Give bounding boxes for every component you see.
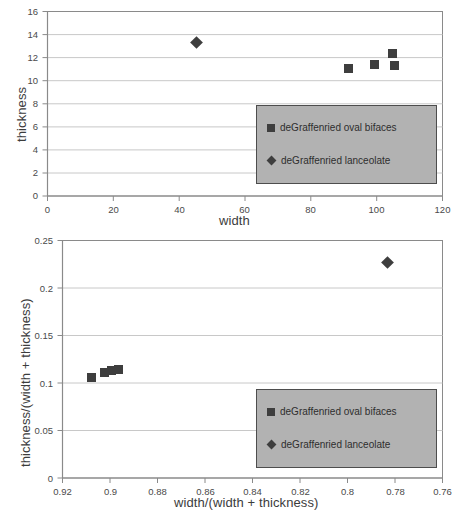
bottom-xtick-076: 0.76 xyxy=(427,486,456,497)
square-marker-icon xyxy=(267,408,275,416)
bottom-xtick-09: 0.9 xyxy=(95,486,126,497)
top-ytick-12: 12 xyxy=(18,52,38,63)
top-ytick-0: 0 xyxy=(18,190,38,201)
chart-thickness-ratio-vs-width-ratio: 0.25 0.2 0.15 0.1 0.05 0 0.92 0.9 0.88 0… xyxy=(0,230,456,517)
data-point-oval-biface xyxy=(388,49,397,58)
data-point-oval-biface xyxy=(370,60,379,69)
bottom-ytick-02: 0.2 xyxy=(25,283,53,294)
data-point-oval-biface xyxy=(390,61,399,70)
top-ytick-4: 4 xyxy=(18,144,38,155)
bottom-x-axis-title: width/(width + thickness) xyxy=(174,495,318,510)
chart-thickness-vs-width: 16 14 12 10 8 6 4 2 0 0 20 40 60 80 100 … xyxy=(0,0,456,230)
square-marker-icon xyxy=(267,124,275,132)
top-xtick-120: 120 xyxy=(427,204,456,215)
bottom-xtick-088: 0.88 xyxy=(142,486,173,497)
top-ytick-16: 16 xyxy=(18,6,38,17)
bottom-xtick-08: 0.8 xyxy=(332,486,363,497)
top-ytick-14: 14 xyxy=(18,29,38,40)
legend-label-oval-bifaces: deGraffenried oval bifaces xyxy=(280,407,397,417)
top-chart-legend: deGraffenried oval bifaces deGraffenried… xyxy=(256,105,437,184)
legend-label-lanceolate: deGraffenried lanceolate xyxy=(281,440,390,450)
data-point-oval-biface xyxy=(114,365,123,374)
bottom-ytick-0: 0 xyxy=(25,473,53,484)
top-x-axis-title: width xyxy=(219,213,250,228)
diamond-marker-icon xyxy=(267,156,277,166)
bottom-xtick-078: 0.78 xyxy=(380,486,411,497)
diamond-marker-icon xyxy=(267,440,277,450)
legend-item-oval-bifaces: deGraffenried oval bifaces xyxy=(267,407,436,417)
top-xtick-20: 20 xyxy=(98,204,129,215)
top-xtick-100: 100 xyxy=(361,204,392,215)
top-ytick-2: 2 xyxy=(18,167,38,178)
data-point-oval-biface xyxy=(87,373,96,382)
top-xtick-0: 0 xyxy=(32,204,63,215)
bottom-plot-frame xyxy=(0,230,456,517)
data-point-oval-biface xyxy=(344,64,353,73)
legend-item-oval-bifaces: deGraffenried oval bifaces xyxy=(267,123,436,133)
top-y-axis-title: thickness xyxy=(14,87,29,142)
legend-item-lanceolate: deGraffenried lanceolate xyxy=(267,156,436,166)
bottom-xtick-092: 0.92 xyxy=(47,486,78,497)
top-xtick-40: 40 xyxy=(164,204,195,215)
top-xtick-80: 80 xyxy=(295,204,326,215)
bottom-y-axis-title: thickness/(width + thickness) xyxy=(18,298,33,467)
legend-item-lanceolate: deGraffenried lanceolate xyxy=(267,440,436,450)
bottom-ytick-025: 0.25 xyxy=(25,235,53,246)
legend-label-oval-bifaces: deGraffenried oval bifaces xyxy=(280,123,397,133)
legend-label-lanceolate: deGraffenried lanceolate xyxy=(281,156,390,166)
bottom-chart-legend: deGraffenried oval bifaces deGraffenried… xyxy=(256,389,437,468)
top-ytick-10: 10 xyxy=(18,75,38,86)
